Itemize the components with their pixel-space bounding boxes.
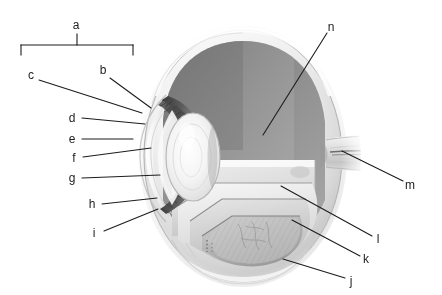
eye-anatomy-figure: abcdefghijklmn [0,0,442,295]
leader-line-b [110,78,151,108]
leader-line-f [83,148,151,157]
leader-line-m [342,151,403,181]
label-d: d [69,112,76,124]
label-e: e [69,133,76,145]
leader-lines [39,33,403,278]
leader-line-d [82,118,145,124]
label-b: b [100,64,107,76]
label-a: a [73,19,80,31]
leader-line-h [102,198,157,204]
leader-line-k [292,220,360,256]
annotation-layer [0,0,442,295]
label-f: f [72,152,75,164]
leader-line-n [263,33,327,135]
bracket-a [21,34,133,55]
label-j: j [350,275,353,287]
leader-line-j [283,259,345,278]
leader-line-g [82,175,160,178]
leader-line-i [104,209,158,231]
label-l: l [377,233,380,245]
label-k: k [363,253,369,265]
leader-line-l [281,186,372,236]
label-m: m [405,179,415,191]
label-g: g [69,172,76,184]
label-c: c [28,69,34,81]
leader-line-c [39,80,142,113]
label-n: n [328,21,335,33]
label-h: h [89,198,96,210]
label-i: i [93,227,96,239]
